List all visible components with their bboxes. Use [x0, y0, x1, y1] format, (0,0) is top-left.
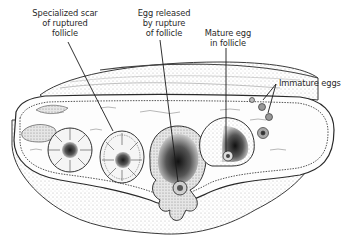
ovary-diagram: Specialized scar of ruptured follicle Eg… — [0, 0, 348, 243]
corpus-luteum-2 — [100, 131, 144, 183]
corpus-luteum-1 — [48, 128, 92, 172]
label-mature-egg: Mature egg in follicle — [202, 28, 254, 48]
label-specialized-scar: Specialized scar of ruptured follicle — [32, 8, 98, 38]
label-immature-eggs: Immature eggs — [279, 78, 341, 88]
label-egg-released: Egg released by rupture of follicle — [136, 8, 192, 38]
